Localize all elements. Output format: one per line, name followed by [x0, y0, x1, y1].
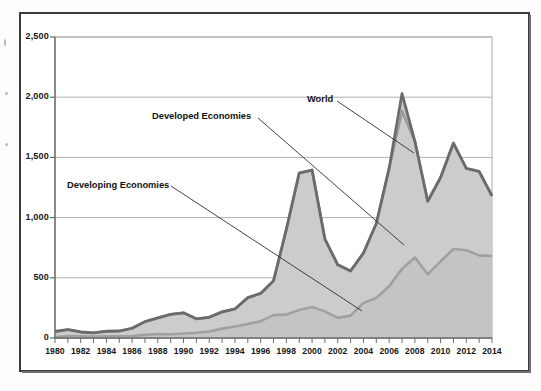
y-tick-label: 2,500 — [3, 31, 49, 41]
y-tick-label: 0 — [3, 332, 49, 342]
area-chart — [0, 0, 541, 391]
figure-root: 0 500 1,000 1,500 2,000 2,500 1980198219… — [0, 0, 541, 391]
y-tick-label: 1,000 — [3, 212, 49, 222]
y-tick-label: 500 — [3, 272, 49, 282]
series-label-world: World — [307, 94, 333, 104]
x-tick-label: 2014 — [477, 346, 507, 356]
y-tick-label: 1,500 — [3, 151, 49, 161]
plot-area — [0, 0, 541, 391]
series-label-developed-economies: Developed Economies — [152, 111, 251, 121]
series-label-developing-economies: Developing Economies — [67, 180, 169, 190]
y-tick-label: 2,000 — [3, 91, 49, 101]
